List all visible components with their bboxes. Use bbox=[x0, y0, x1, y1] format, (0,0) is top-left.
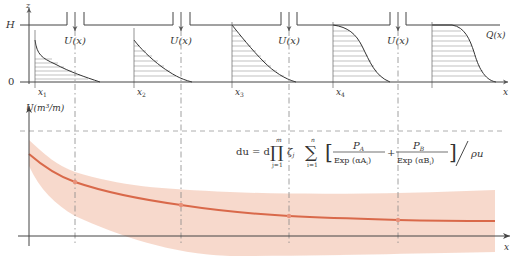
svg-text:n: n bbox=[311, 136, 315, 143]
profile-2 bbox=[134, 40, 192, 82]
svg-text:Exp (αAi): Exp (αAi) bbox=[334, 156, 371, 166]
svg-text:∑: ∑ bbox=[305, 142, 317, 162]
svg-text:]: ] bbox=[449, 140, 457, 164]
top-panel: z H 0 U(x) U(x) U(x) U(x) Q(x) bbox=[5, 1, 508, 98]
svg-text:x4: x4 bbox=[336, 87, 345, 98]
tank-top-line bbox=[20, 12, 500, 25]
outflow-label: Q(x) bbox=[486, 30, 506, 40]
top-x-axis-label: x bbox=[503, 87, 508, 97]
profile-3 bbox=[232, 25, 296, 82]
svg-text:j=1: j=1 bbox=[271, 161, 283, 169]
svg-text:m: m bbox=[276, 136, 282, 143]
svg-text:PB: PB bbox=[412, 140, 425, 152]
svg-text:i=1: i=1 bbox=[307, 161, 318, 168]
h-label: H bbox=[5, 19, 15, 30]
bottom-panel: U(m³/m) x du = d ∏ m j=1 ζj ∑ n i=1 [ PA… bbox=[18, 30, 510, 256]
svg-text:∏: ∏ bbox=[270, 142, 284, 162]
svg-text:x2: x2 bbox=[137, 87, 146, 98]
figure: z H 0 U(x) U(x) U(x) U(x) Q(x) bbox=[0, 0, 521, 262]
svg-text:ρu: ρu bbox=[470, 148, 483, 159]
inflow-arrows bbox=[75, 12, 398, 31]
svg-text:ζj: ζj bbox=[287, 146, 294, 159]
profile-1 bbox=[35, 40, 100, 82]
svg-text:Exp (αBi): Exp (αBi) bbox=[397, 156, 434, 166]
svg-text:x1: x1 bbox=[38, 87, 47, 98]
formula: du = d ∏ m j=1 ζj ∑ n i=1 [ PA Exp (αAi)… bbox=[236, 136, 483, 169]
svg-text:du = d: du = d bbox=[236, 146, 271, 157]
svg-text:PA: PA bbox=[352, 140, 365, 152]
x-axis-label: x bbox=[504, 242, 509, 252]
y-axis-label: U(m³/m) bbox=[26, 103, 65, 113]
svg-text:x3: x3 bbox=[235, 87, 244, 98]
svg-text:[: [ bbox=[325, 140, 333, 164]
z-axis-label: z bbox=[25, 1, 31, 10]
zero-label: 0 bbox=[8, 76, 14, 87]
svg-text:+: + bbox=[387, 147, 395, 158]
station-lines bbox=[35, 22, 432, 88]
profile-4 bbox=[333, 25, 390, 82]
station-labels: x1 x2 x3 x4 bbox=[38, 87, 345, 98]
